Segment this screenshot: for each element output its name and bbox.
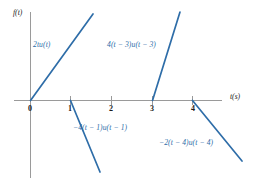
plot-canvas	[0, 0, 265, 190]
annotation-4t-3: 4(t − 3)u(t − 3)	[107, 41, 156, 49]
curve-2tu-t	[31, 14, 94, 101]
waveform-figure: f(t) t(s) 0 1 2 3 4 2tu(t) 4(t − 3)u(t −…	[0, 0, 265, 190]
curve-neg2t-4	[193, 101, 243, 162]
x-tick-label-3: 3	[147, 105, 157, 113]
x-tick-label-1: 1	[65, 105, 75, 113]
x-tick-label-4: 4	[188, 105, 198, 113]
annotation-neg2t-4: −2(t − 4)u(t − 4)	[159, 139, 213, 147]
annotation-neg4t-1: −4(t − 1)u(t − 1)	[73, 124, 127, 132]
x-tick-label-2: 2	[106, 105, 116, 113]
annotation-2tu-t: 2tu(t)	[33, 41, 50, 49]
x-axis-label: t(s)	[230, 93, 240, 101]
y-axis-label: f(t)	[13, 9, 22, 17]
curve-4t-3	[153, 12, 181, 101]
x-tick-label-0: 0	[25, 105, 35, 113]
